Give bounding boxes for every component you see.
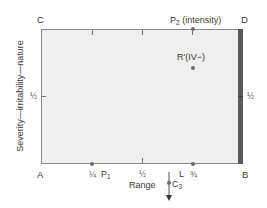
point-c3-label: C3: [172, 179, 182, 192]
corner-label-a: A: [37, 170, 43, 180]
corner-label-b: B: [242, 170, 248, 180]
top-tick-half: [142, 30, 143, 35]
point-r-prime-label: R'(IV−): [177, 52, 205, 62]
point-p2-label: P2 (intensity): [170, 15, 221, 28]
x-tick-label-quarter: ¼: [89, 169, 96, 179]
right-tick-half: [238, 96, 243, 97]
x-axis-label: Range: [129, 180, 156, 190]
x-tick-label-half: ½: [139, 169, 146, 179]
bottom-tick-half: [142, 158, 143, 163]
point-l: [191, 162, 195, 166]
top-tick-three-quarter: [192, 30, 193, 35]
corner-label-d: D: [241, 15, 248, 25]
y-axis-label: Severity—irritability—nature: [15, 40, 25, 152]
point-r-prime: [191, 66, 195, 70]
top-tick-quarter: [92, 30, 93, 35]
plot-area: [41, 29, 238, 164]
left-tick-half: [41, 96, 46, 97]
point-p1: [90, 162, 94, 166]
point-l-label: L: [179, 169, 184, 179]
x-tick-label-three-quarter: ¾: [190, 169, 197, 179]
right-tick-label-half: ½: [247, 91, 254, 101]
point-p1-label: P1: [101, 169, 111, 182]
left-tick-label-half: ½: [30, 91, 37, 101]
corner-label-c: C: [37, 15, 44, 25]
